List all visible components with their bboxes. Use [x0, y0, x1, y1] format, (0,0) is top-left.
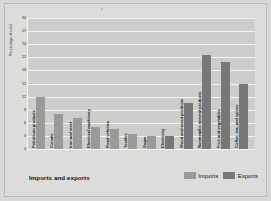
bar-slot: Nonmetallic mineral products: [198, 18, 217, 149]
bar: Sugar: [147, 136, 156, 149]
bar-category-label: Fruit and vegetables: [216, 109, 222, 148]
y-axis-tick-18: 18: [13, 67, 26, 73]
bar-category-label: Wood and wood products: [179, 99, 185, 148]
bar-slot: Iron and steel: [68, 18, 87, 149]
bar-category-label: Petroleum products: [31, 110, 37, 148]
bar-slot: Electrical machinery: [87, 18, 106, 149]
y-axis-tick-3: 3: [13, 133, 26, 139]
y-axis-tick-0: 0: [13, 146, 26, 152]
bar-category-label: Textiles: [123, 133, 129, 148]
bar-slot: Road vehicles: [105, 18, 124, 149]
bar: Iron and steel: [73, 118, 82, 149]
gridline: [28, 149, 255, 150]
bar: Coffee, tea, and spices: [239, 84, 248, 150]
y-axis-tick-12: 12: [13, 94, 26, 100]
bar: Cereals: [54, 114, 63, 149]
bar-category-label: Sugar: [142, 137, 148, 148]
legend-item-imports: Imports: [184, 172, 219, 179]
bar: Electricity: [165, 136, 174, 149]
bar-group: Petroleum productsCerealsIron and steelE…: [28, 18, 255, 149]
y-axis-tick-15: 15: [13, 81, 26, 87]
bar-chart-figure: Percentage of total 302724211815129630 P…: [5, 4, 266, 197]
bar-category-label: Iron and steel: [68, 122, 74, 148]
bar-category-label: Coffee, tea, and spices: [234, 105, 240, 148]
plot-area: Petroleum productsCerealsIron and steelE…: [27, 18, 255, 149]
legend-item-exports: Exports: [223, 172, 258, 179]
bar-category-label: Road vehicles: [105, 121, 111, 148]
bar: Wood and wood products: [184, 103, 193, 149]
legend-label-imports: Imports: [198, 173, 218, 179]
bar-category-label: Electricity: [160, 129, 166, 148]
bar-slot: Electricity: [161, 18, 180, 149]
scan-artifact: [101, 8, 103, 10]
y-axis-tick-labels: 302724211815129630: [13, 18, 26, 149]
y-axis-tick-27: 27: [13, 28, 26, 34]
bar-slot: Petroleum products: [31, 18, 50, 149]
bar: Road vehicles: [110, 129, 119, 149]
bar-category-label: Nonmetallic mineral products: [197, 92, 203, 148]
bar: Fruit and vegetables: [221, 62, 230, 149]
bar-category-label: Cereals: [49, 133, 55, 148]
bar: Textiles: [128, 134, 137, 149]
bar-slot: Sugar: [142, 18, 161, 149]
chart-legend: ImportsExports: [184, 172, 258, 179]
screenshot-root: Percentage of total 302724211815129630 P…: [0, 0, 271, 201]
bar-slot: Wood and wood products: [179, 18, 198, 149]
bar-slot: Fruit and vegetables: [216, 18, 235, 149]
legend-label-exports: Exports: [238, 173, 258, 179]
bar-category-label: Electrical machinery: [86, 109, 92, 148]
bar-slot: Coffee, tea, and spices: [235, 18, 254, 149]
y-axis-tick-6: 6: [13, 120, 26, 126]
y-axis-tick-24: 24: [13, 41, 26, 47]
y-axis-tick-30: 30: [13, 15, 26, 21]
legend-swatch-exports: [223, 172, 235, 179]
bar: Nonmetallic mineral products: [202, 55, 211, 149]
bar-slot: Cereals: [50, 18, 69, 149]
y-axis-tick-21: 21: [13, 54, 26, 60]
y-axis-tick-9: 9: [13, 107, 26, 113]
bar: Petroleum products: [36, 97, 45, 149]
x-axis-title: Imports and exports: [29, 174, 90, 181]
bar: Electrical machinery: [91, 127, 100, 149]
bar-slot: Textiles: [124, 18, 143, 149]
legend-swatch-imports: [184, 172, 196, 179]
